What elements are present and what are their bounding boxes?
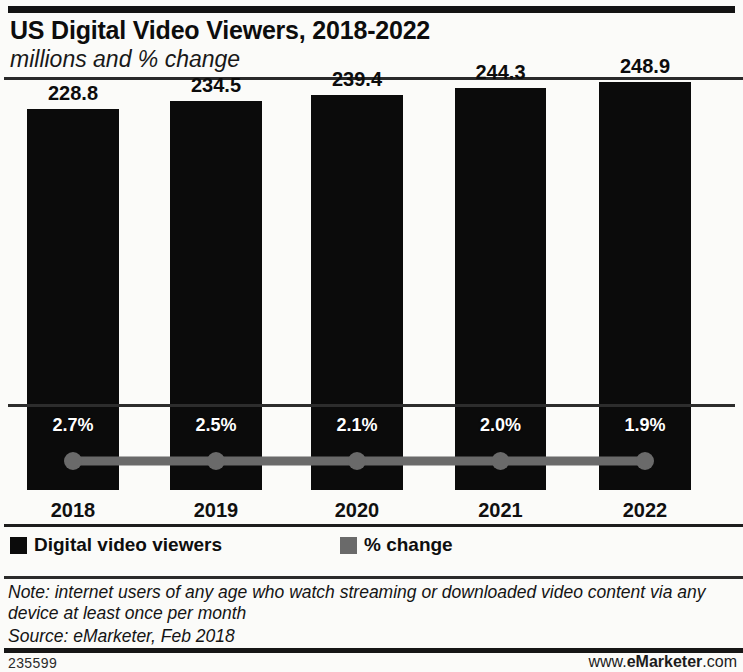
- plot-area: 228.82.7%234.52.5%239.42.1%244.32.0%248.…: [0, 84, 743, 494]
- x-axis-tick-label: 2018: [13, 499, 133, 522]
- legend-swatch-icon: [10, 537, 27, 554]
- top-rule: [8, 6, 735, 13]
- percent-change-label: 1.9%: [589, 415, 701, 436]
- bar-value-label: 244.3: [441, 61, 560, 84]
- watermark-brand: eMarketer: [627, 653, 703, 670]
- bar-group: 244.32.0%: [455, 84, 546, 494]
- chart-id: 235599: [8, 655, 57, 671]
- percent-change-label: 2.7%: [17, 415, 129, 436]
- bar-group: 239.42.1%: [311, 84, 403, 494]
- x-axis-tick-label: 2022: [585, 499, 705, 522]
- watermark-suffix: .com: [702, 653, 737, 670]
- chart-title: US Digital Video Viewers, 2018-2022: [10, 16, 430, 45]
- chart-source: Source: eMarketer, Feb 2018: [8, 626, 235, 647]
- percent-change-label: 2.0%: [445, 415, 556, 436]
- bar-value-label: 234.5: [156, 74, 276, 97]
- chart-subtitle: millions and % change: [10, 46, 240, 73]
- chart-figure: US Digital Video Viewers, 2018-2022 mill…: [0, 0, 743, 672]
- watermark-prefix: www.: [588, 653, 626, 670]
- legend-label: Digital video viewers: [34, 534, 222, 556]
- percent-change-label: 2.1%: [301, 415, 413, 436]
- legend-item: Digital video viewers: [10, 534, 222, 556]
- bar-value-label: 239.4: [297, 68, 417, 91]
- legend-divider: [4, 524, 743, 527]
- chart-note: Note: internet users of any age who watc…: [8, 582, 743, 624]
- x-axis-tick-label: 2019: [156, 499, 276, 522]
- note-divider: [4, 576, 743, 579]
- x-axis-tick-label: 2021: [441, 499, 560, 522]
- x-axis-line: [8, 404, 735, 407]
- bar-group: 234.52.5%: [170, 84, 262, 494]
- bar-value-label: 228.8: [13, 82, 133, 105]
- emarketer-watermark: www.eMarketer.com: [588, 653, 737, 671]
- bar-value-label: 248.9: [585, 55, 705, 78]
- legend-swatch-icon: [340, 537, 357, 554]
- percent-change-label: 2.5%: [160, 415, 272, 436]
- bar-group: 228.82.7%: [27, 84, 119, 494]
- legend-item: % change: [340, 534, 453, 556]
- legend-label: % change: [364, 534, 453, 556]
- bar-group: 248.91.9%: [599, 84, 691, 494]
- x-axis-tick-label: 2020: [297, 499, 417, 522]
